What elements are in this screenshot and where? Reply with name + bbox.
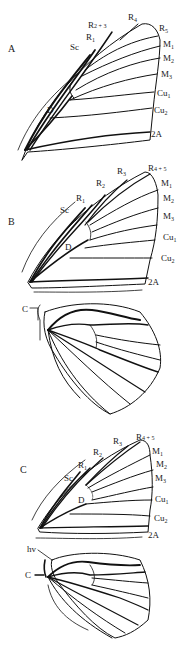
vein-cu1 [70,92,154,100]
label-d: D [78,495,85,505]
label-m2: M2 [163,53,174,64]
label-r1: R1 [86,32,95,43]
vein-m3 [90,225,157,240]
vein-cubitus-stem [30,240,88,282]
label-cu2: Cu2 [154,513,168,524]
panel-b-hindwing [38,304,161,414]
label-r23: R2 + 3 [88,20,106,30]
vein-m1-hind [96,335,160,345]
vein-2a-hind [48,330,110,414]
panel-a: A Sc R1 R2 + 3 R4 R5 M1 M2 M3 Cu1 Cu [8,12,174,160]
label-d: D [47,105,54,115]
panel-b-letter: B [8,216,15,227]
discal-cell-closure-hind [90,325,97,348]
vein-m1-hind [92,578,148,583]
vein-cu2-hind [48,330,130,404]
vein-rs-hind [48,572,145,577]
label-r5: R5 [159,23,168,34]
label-cu2: Cu2 [154,105,168,116]
forewing-outline [22,24,160,160]
vein-cu1 [86,500,152,504]
label-r45: R4 + 5 [136,432,154,442]
vein-cu2-hind [48,577,125,633]
vein-m2 [92,208,158,232]
wing-venation-diagram: A Sc R1 R2 + 3 R4 R5 M1 M2 M3 Cu1 Cu [0,0,181,649]
label-cu1: Cu1 [155,494,169,505]
label-r1: R1 [78,460,87,471]
vein-m3 [92,487,153,500]
panel-b-forewing [22,172,158,292]
vein-r2 [42,458,103,528]
label-m1: M1 [152,446,163,457]
inner-margin [34,290,142,292]
label-cu1: Cu1 [163,232,177,243]
label-2a: 2A [151,129,163,139]
label-hv: hv [27,544,37,554]
label-sc: Sc [70,42,79,52]
vein-2a [40,526,148,528]
vein-cu1 [85,240,155,248]
vein-r1 [27,50,95,150]
panel-c-hindwing [44,553,150,638]
label-cu2: Cu2 [161,253,175,264]
vein-m1 [88,455,150,488]
label-m1: M1 [161,178,172,189]
label-hv-leader [38,550,52,560]
label-r3: R3 [113,436,122,447]
vein-m1 [90,190,158,225]
hindwing-outline [44,304,161,414]
label-sc: Sc [60,205,69,215]
label-m3: M3 [163,211,174,222]
label-2a: 2A [148,530,160,540]
label-m1: M1 [163,39,174,50]
vein-m2-hind [96,342,160,360]
vein-3a-hind [48,585,88,630]
label-c-leader [30,308,38,320]
panel-a-letter: A [8,43,16,54]
label-m3: M3 [161,69,172,80]
vein-cu2 [50,108,152,118]
label-c-hind: C [22,304,28,314]
vein-rs-hind [48,324,148,330]
panel-a-forewing [18,24,160,160]
vein-cu2 [70,514,150,516]
panel-c-letter: C [20,464,27,475]
label-r2: R2 [96,178,105,189]
forewing-outline [28,172,158,288]
label-r3: R3 [117,166,126,177]
label-r4: R4 [128,12,137,23]
label-r1: R1 [76,193,85,204]
label-r45: R4 + 5 [148,163,166,173]
label-d: D [65,242,72,252]
label-m2: M2 [156,459,167,470]
panel-b: B Sc R1 R2 R3 R4 + 5 M1 M2 M3 Cu1 Cu [8,163,177,414]
label-c-hind: C [25,570,31,580]
vein-r5 [85,36,158,70]
label-r2: R2 [93,447,102,458]
label-m3: M3 [155,473,166,484]
label-2a: 2A [148,277,160,287]
inner-margin [36,537,142,539]
label-m2: M2 [163,193,174,204]
vein-r4 [120,24,138,40]
label-sc: Sc [64,473,73,483]
vein-sc-r1-hind [48,310,140,330]
humeral-vein [44,560,46,577]
label-cu1: Cu1 [157,88,171,99]
panel-c: C Sc R1 R2 R3 R4 + 5 M1 M2 M3 Cu1 Cu [20,432,169,638]
vein-2a [30,278,148,282]
